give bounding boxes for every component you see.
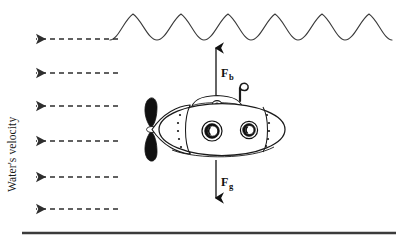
gravity-force-label: F (221, 175, 228, 189)
propeller-blade-upper (145, 98, 157, 128)
propeller-blade-lower (145, 131, 157, 161)
physics-diagram-svg: Water's velocity F b F g (0, 0, 410, 245)
gravity-force-arrow: F g (216, 160, 234, 198)
porthole-icon (240, 121, 257, 138)
water-velocity-arrows (36, 39, 118, 209)
gravity-force-label-subscript: g (229, 181, 234, 191)
submarine (145, 83, 285, 161)
wave-surface (110, 14, 392, 40)
water-velocity-label-text: Water's velocity (6, 117, 19, 192)
wave-crest-path (110, 14, 392, 40)
periscope-icon (240, 83, 248, 101)
buoyant-force-label: F (221, 66, 228, 80)
buoyant-force-label-subscript: b (229, 72, 234, 82)
buoyant-force-arrow: F b (216, 48, 234, 97)
water-velocity-label: Water's velocity (6, 117, 19, 192)
diagram-canvas: Water's velocity F b F g (0, 0, 410, 245)
porthole-icon (202, 121, 222, 141)
periscope-head (240, 83, 248, 90)
